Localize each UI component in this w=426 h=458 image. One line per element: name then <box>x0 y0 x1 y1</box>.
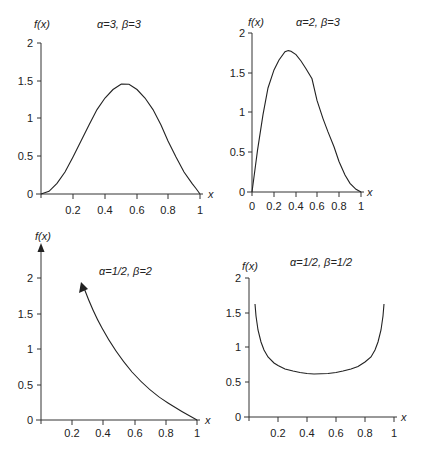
svg-text:0: 0 <box>27 414 33 426</box>
svg-text:0.4: 0.4 <box>95 427 110 439</box>
svg-text:2: 2 <box>27 37 33 49</box>
svg-text:0.6: 0.6 <box>328 427 343 439</box>
svg-text:0.6: 0.6 <box>309 200 324 212</box>
density-curve <box>41 84 200 194</box>
svg-text:0.5: 0.5 <box>226 376 241 388</box>
y-axis-label: f(x) <box>34 18 50 30</box>
panel-alpha-half-beta2: f(x) α=1/2, β=2 x 0 0.5 1 1.5 2 0.2 0.4 … <box>18 230 211 439</box>
svg-text:1: 1 <box>235 341 241 353</box>
svg-text:0.2: 0.2 <box>65 204 80 216</box>
svg-text:1.5: 1.5 <box>230 67 245 79</box>
svg-text:0.4: 0.4 <box>299 427 314 439</box>
svg-text:2: 2 <box>235 272 241 284</box>
y-axis-arrow-icon <box>38 243 45 252</box>
x-ticks: 0.2 0.4 0.6 0.8 1 <box>65 194 203 216</box>
x-axis-label: x <box>204 414 211 426</box>
svg-text:0.6: 0.6 <box>129 204 144 216</box>
svg-text:1: 1 <box>194 427 200 439</box>
x-ticks: 0 0.2 0.4 0.6 0.8 1 <box>249 192 364 212</box>
panel-alpha3-beta3: f(x) α=3, β=3 x 0 0.5 1 1.5 2 0.2 0.4 0.… <box>18 18 214 216</box>
density-curve <box>84 288 197 420</box>
svg-text:0: 0 <box>235 411 241 423</box>
svg-text:0.8: 0.8 <box>357 427 372 439</box>
svg-text:0.2: 0.2 <box>64 427 79 439</box>
panel-title: α=2, β=3 <box>296 16 341 28</box>
x-axis-label: x <box>207 188 214 200</box>
svg-text:0.5: 0.5 <box>230 146 245 158</box>
svg-text:1: 1 <box>27 112 33 124</box>
svg-text:1.5: 1.5 <box>18 75 33 87</box>
svg-text:0: 0 <box>27 188 33 200</box>
svg-text:1: 1 <box>391 427 397 439</box>
density-curve <box>255 304 384 374</box>
svg-text:0.2: 0.2 <box>270 427 285 439</box>
svg-text:0.5: 0.5 <box>18 150 33 162</box>
y-ticks: 0 0.5 1 1.5 2 <box>18 37 41 200</box>
svg-text:1.5: 1.5 <box>18 308 33 320</box>
svg-text:1: 1 <box>27 343 33 355</box>
y-axis-label: f(x) <box>248 16 264 28</box>
svg-text:1.5: 1.5 <box>226 307 241 319</box>
svg-text:0.4: 0.4 <box>288 200 303 212</box>
svg-text:2: 2 <box>27 272 33 284</box>
svg-text:1: 1 <box>358 200 364 212</box>
y-ticks: 0 0.5 1 1.5 2 <box>230 27 252 198</box>
panel-alpha2-beta3: f(x) α=2, β=3 x 0 0.5 1 1.5 2 0 0.2 0.4 … <box>230 16 373 212</box>
x-axis-label: x <box>366 186 373 198</box>
svg-text:1: 1 <box>239 106 245 118</box>
svg-text:2: 2 <box>239 27 245 39</box>
svg-text:0.8: 0.8 <box>160 204 175 216</box>
y-ticks: 0 0.5 1 1.5 2 <box>18 272 41 426</box>
svg-text:0: 0 <box>239 186 245 198</box>
y-ticks: 0 0.5 1 1.5 2 <box>226 272 249 423</box>
curve-arrow-icon <box>79 282 88 293</box>
svg-text:1: 1 <box>197 204 203 216</box>
panel-alpha-half-beta-half: f(x) α=1/2, β=1/2 x 0 0.5 1 1.5 2 0.2 0.… <box>226 256 407 439</box>
density-curve <box>252 51 361 192</box>
svg-text:0.5: 0.5 <box>18 379 33 391</box>
y-axis-label: f(x) <box>242 260 258 272</box>
svg-text:0.8: 0.8 <box>331 200 346 212</box>
panel-title: α=1/2, β=1/2 <box>290 256 352 268</box>
y-axis-label: f(x) <box>35 230 51 242</box>
svg-text:0.2: 0.2 <box>266 200 281 212</box>
x-ticks: 0.2 0.4 0.6 0.8 1 <box>64 420 200 439</box>
svg-text:0.8: 0.8 <box>158 427 173 439</box>
panel-title: α=3, β=3 <box>97 18 142 30</box>
panel-title: α=1/2, β=2 <box>99 265 152 277</box>
x-ticks: 0.2 0.4 0.6 0.8 1 <box>270 417 397 439</box>
beta-distribution-figure: f(x) α=3, β=3 x 0 0.5 1 1.5 2 0.2 0.4 0.… <box>0 0 426 458</box>
svg-text:0.4: 0.4 <box>97 204 112 216</box>
svg-text:0.6: 0.6 <box>127 427 142 439</box>
svg-text:0: 0 <box>249 200 255 212</box>
x-axis-label: x <box>400 411 407 423</box>
